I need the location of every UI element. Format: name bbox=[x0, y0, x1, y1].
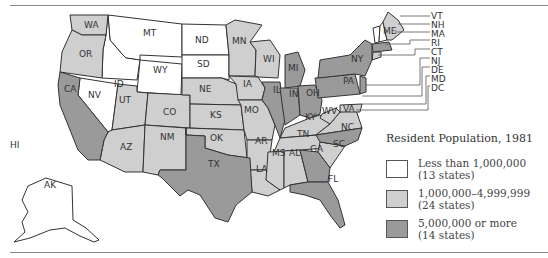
legend-title: Resident Population, 1981 bbox=[386, 132, 548, 145]
svg-text:OH: OH bbox=[306, 88, 320, 98]
swatch-high bbox=[386, 220, 408, 238]
svg-text:UT: UT bbox=[119, 95, 132, 105]
svg-text:HI: HI bbox=[10, 140, 19, 150]
legend-range-high: 5,000,000 or more bbox=[418, 217, 517, 229]
legend-count-low: (13 states) bbox=[418, 169, 526, 181]
svg-text:SC: SC bbox=[333, 139, 345, 149]
svg-text:AR: AR bbox=[255, 136, 267, 146]
svg-text:TN: TN bbox=[296, 129, 309, 139]
svg-text:MT: MT bbox=[143, 28, 157, 38]
state-ne bbox=[182, 78, 241, 105]
swatch-mid bbox=[386, 190, 408, 208]
svg-text:SD: SD bbox=[197, 59, 210, 69]
legend-count-high: (14 states) bbox=[418, 229, 517, 241]
svg-text:ID: ID bbox=[114, 79, 124, 89]
svg-text:MO: MO bbox=[244, 105, 259, 115]
legend-count-mid: (24 states) bbox=[418, 199, 530, 211]
svg-text:IL: IL bbox=[273, 85, 281, 95]
svg-text:IA: IA bbox=[243, 79, 253, 89]
svg-text:NY: NY bbox=[351, 54, 364, 64]
svg-text:CO: CO bbox=[163, 107, 176, 117]
state-nj bbox=[360, 76, 366, 94]
svg-text:LA: LA bbox=[256, 164, 268, 174]
svg-text:AL: AL bbox=[289, 148, 300, 158]
legend-item-mid: 1,000,000–4,999,999 (24 states) bbox=[384, 187, 548, 211]
svg-text:AZ: AZ bbox=[120, 142, 132, 152]
svg-text:TX: TX bbox=[207, 159, 220, 169]
svg-text:ME: ME bbox=[383, 26, 397, 36]
svg-text:OR: OR bbox=[79, 49, 92, 59]
callout-labels: VT NH MA RI CT NJ DE MD DC bbox=[431, 11, 446, 93]
svg-text:NE: NE bbox=[199, 84, 212, 94]
svg-text:MI: MI bbox=[288, 63, 298, 73]
svg-text:VA: VA bbox=[343, 104, 356, 114]
svg-text:NM: NM bbox=[160, 132, 175, 142]
legend: Resident Population, 1981 Less than 1,00… bbox=[384, 132, 548, 247]
swatch-low bbox=[386, 160, 408, 178]
svg-text:WV: WV bbox=[322, 106, 338, 116]
state-ma bbox=[372, 42, 392, 52]
state-ct bbox=[372, 52, 381, 60]
svg-text:NC: NC bbox=[341, 122, 354, 132]
svg-text:MN: MN bbox=[232, 36, 247, 46]
svg-text:WA: WA bbox=[84, 20, 99, 30]
svg-text:AK: AK bbox=[44, 180, 57, 190]
svg-text:WY: WY bbox=[153, 65, 168, 75]
svg-text:IN: IN bbox=[289, 89, 298, 99]
svg-text:KY: KY bbox=[305, 112, 317, 122]
svg-text:DC: DC bbox=[431, 83, 444, 93]
state-ak bbox=[14, 178, 99, 242]
legend-item-high: 5,000,000 or more (14 states) bbox=[384, 217, 548, 241]
legend-item-low: Less than 1,000,000 (13 states) bbox=[384, 157, 548, 181]
svg-text:MS: MS bbox=[272, 148, 286, 158]
svg-text:PA: PA bbox=[343, 76, 355, 86]
state-fl bbox=[290, 182, 345, 228]
svg-text:WI: WI bbox=[263, 54, 275, 64]
legend-range-low: Less than 1,000,000 bbox=[418, 157, 526, 169]
svg-text:FL: FL bbox=[328, 174, 338, 184]
state-ny bbox=[318, 40, 372, 78]
svg-text:ND: ND bbox=[195, 35, 209, 45]
svg-text:GA: GA bbox=[310, 144, 324, 154]
svg-text:CA: CA bbox=[64, 84, 77, 94]
svg-text:NV: NV bbox=[88, 90, 102, 100]
legend-range-mid: 1,000,000–4,999,999 bbox=[418, 187, 530, 199]
svg-text:OK: OK bbox=[210, 133, 224, 143]
svg-text:KS: KS bbox=[210, 110, 222, 120]
